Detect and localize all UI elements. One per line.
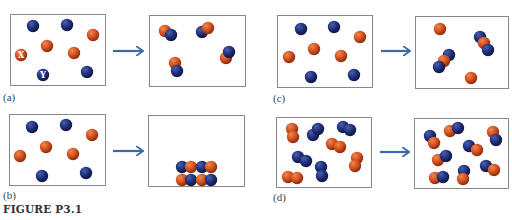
panel-label-b: (b) xyxy=(3,189,16,201)
atom-x-red xyxy=(465,72,477,84)
atom-y-blue xyxy=(312,123,324,135)
atom-y-blue xyxy=(490,134,502,146)
atom-y-blue xyxy=(81,66,93,78)
atom-y-blue xyxy=(316,170,328,182)
atom-x-red xyxy=(471,144,483,156)
atom-x-red xyxy=(488,164,500,176)
atom-y-blue xyxy=(433,61,445,73)
atom-y-blue xyxy=(27,20,39,32)
before-state-d xyxy=(277,118,372,188)
atom-y-blue: Y xyxy=(37,69,49,81)
atom-x-red xyxy=(185,161,197,173)
atom-x-red xyxy=(205,161,217,173)
atom-y-blue xyxy=(165,29,177,41)
atom-y-blue xyxy=(452,122,464,134)
atom-y-blue xyxy=(348,69,360,81)
before-state-a: XY xyxy=(11,15,106,86)
atom-y-blue xyxy=(171,65,183,77)
atom-x-red xyxy=(41,40,53,52)
atom-x-red xyxy=(202,22,214,34)
panel-b xyxy=(10,115,245,187)
atom-y-blue xyxy=(205,174,217,186)
container-box xyxy=(149,116,245,187)
atom-y-blue xyxy=(305,71,317,83)
atom-y-blue xyxy=(185,174,197,186)
atom-label: X xyxy=(18,50,25,60)
atom-x-red xyxy=(291,172,303,184)
atom-x-red xyxy=(14,150,26,162)
atom-x-red xyxy=(68,47,80,59)
atom-x-red xyxy=(287,131,299,143)
atom-x-red xyxy=(428,137,440,149)
atom-x-red xyxy=(67,148,79,160)
atom-y-blue xyxy=(440,150,452,162)
after-state-d xyxy=(415,119,509,189)
atom-x-red xyxy=(40,141,52,153)
atom-y-blue xyxy=(26,121,38,133)
atom-y-blue xyxy=(295,23,307,35)
after-state-c xyxy=(416,17,509,89)
atom-y-blue xyxy=(36,170,48,182)
atom-y-blue xyxy=(482,44,494,56)
atom-x-red xyxy=(354,31,366,43)
atom-x-red xyxy=(86,129,98,141)
atom-y-blue xyxy=(61,19,73,31)
atom-y-blue xyxy=(437,171,449,183)
container-box xyxy=(416,17,509,89)
atom-x-red xyxy=(335,50,347,62)
atom-x-red xyxy=(334,141,346,153)
atom-y-blue xyxy=(344,124,356,136)
figure-diagram: XY xyxy=(0,0,512,220)
atom-x-red xyxy=(434,23,446,35)
atom-x-red: X xyxy=(15,49,27,61)
atom-y-blue xyxy=(60,119,72,131)
atom-y-blue xyxy=(328,21,340,33)
panel-label-c: (c) xyxy=(273,92,285,104)
after-state-b xyxy=(149,116,245,187)
atom-y-blue xyxy=(300,155,312,167)
before-state-b xyxy=(10,115,106,186)
after-state-a xyxy=(150,16,246,87)
figure-title: FIGURE P3.1 xyxy=(3,203,82,215)
panel-d xyxy=(277,118,509,189)
panel-label-a: (a) xyxy=(3,91,15,103)
atom-y-blue xyxy=(80,167,92,179)
atom-x-red xyxy=(308,43,320,55)
panel-a: XY xyxy=(11,15,246,87)
panel-c xyxy=(278,16,509,89)
before-state-c xyxy=(278,16,373,88)
atom-x-red xyxy=(283,51,295,63)
atom-x-red xyxy=(457,173,469,185)
atom-x-red xyxy=(349,160,361,172)
atom-x-red xyxy=(87,29,99,41)
panel-label-d: (d) xyxy=(273,191,286,203)
atom-label: Y xyxy=(39,70,47,80)
atom-y-blue xyxy=(223,46,235,58)
